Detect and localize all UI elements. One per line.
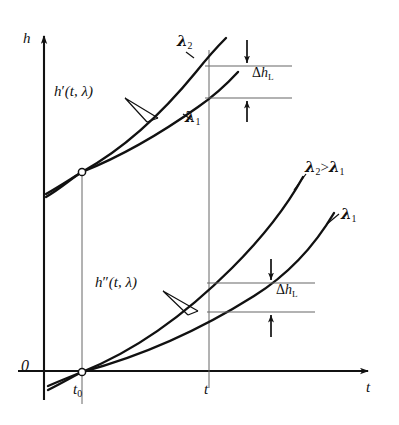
delta-bottom-base: h (285, 282, 292, 297)
leader-lambda2-upper-tick (186, 52, 194, 58)
upper-lambda1-base: λ (185, 108, 196, 126)
label-lower-lambda1: λ1 (341, 207, 356, 224)
delta-bottom-symbol: Δ (276, 282, 285, 297)
delta-top-sub: L (268, 72, 274, 82)
x-tick-t0: t0 (73, 382, 82, 399)
label-delta-h-upper: ΔhL (252, 66, 274, 82)
leader-lines (125, 52, 339, 315)
inequality-right: λ (329, 158, 340, 176)
upper-lambda1-sub: 1 (196, 116, 201, 127)
x-axis-label: t (366, 380, 370, 395)
inequality-op: > (320, 159, 328, 175)
curve-lower-lambda2 (48, 177, 303, 386)
label-upper-lambda2: λ2 (177, 34, 192, 51)
upper-lambda2-base: λ (177, 32, 188, 50)
delta-top-base: h (261, 65, 268, 80)
inequality-left: λ (305, 158, 316, 176)
label-upper-function: h′(t, λ) (54, 84, 93, 99)
label-inequality: λ2>λ1 (305, 160, 344, 177)
delta-bottom-sub: L (292, 289, 298, 299)
delta-top-symbol: Δ (252, 65, 261, 80)
lower-lambda1-base: λ (341, 205, 352, 223)
upper-function-base: h (54, 83, 62, 99)
marker-upper-crossing (78, 168, 85, 175)
x-tick-t0-sub: 0 (77, 388, 82, 399)
upper-function-args: (t, λ) (65, 83, 93, 99)
x-tick-t-base: t (204, 381, 208, 397)
lower-function-args: (t, λ) (109, 274, 137, 290)
diagram-svg (0, 0, 399, 425)
label-upper-lambda1: λ1 (185, 110, 200, 127)
label-lower-function: h″(t, λ) (95, 275, 137, 290)
dimension-upper (205, 40, 292, 122)
label-delta-h-lower: ΔhL (276, 283, 298, 299)
dimension-lower (207, 259, 315, 337)
leader-lower-function-tail (188, 311, 198, 315)
inequality-right-sub: 1 (339, 166, 344, 177)
upper-lambda2-sub: 2 (188, 40, 193, 51)
origin-label: 0 (21, 358, 29, 374)
marker-origin-crossing (78, 368, 85, 375)
lower-lambda1-sub: 1 (352, 213, 357, 224)
x-tick-t: t (204, 382, 208, 397)
y-axis-label: h (23, 31, 31, 46)
lower-function-base: h (95, 274, 103, 290)
curve-lower-lambda1 (48, 213, 334, 390)
figure-canvas: h t 0 t0 t h′(t, λ) h″(t, λ) λ2 λ1 λ2>λ1… (0, 0, 399, 425)
